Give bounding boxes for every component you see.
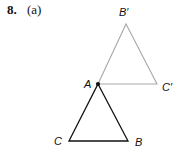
label-a: A [83,78,91,90]
label-b-prime: B′ [119,6,129,18]
label-c-prime: C′ [162,81,173,93]
original-triangle-abc [69,84,128,141]
point-a-dot [96,82,100,86]
image-triangle-ab-c-prime [98,24,157,84]
label-b: B [135,136,142,148]
label-c: C [54,135,62,147]
triangle-figure: B′ C′ A C B [0,0,180,162]
